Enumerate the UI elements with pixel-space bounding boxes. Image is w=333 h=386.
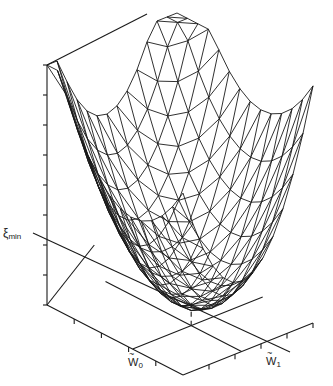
xi-min-label: ξmin — [3, 227, 21, 241]
surface-mesh — [47, 13, 313, 311]
w1-sub: 1 — [276, 360, 280, 369]
w0-sub: 0 — [138, 361, 142, 370]
w0-symbol: W — [128, 357, 138, 368]
w1-label: W1 — [266, 356, 281, 369]
w1-symbol: W — [266, 356, 276, 367]
w0-label: W0 — [128, 357, 143, 370]
xi-sub: min — [8, 232, 21, 241]
performance-surface-figure — [0, 0, 333, 386]
